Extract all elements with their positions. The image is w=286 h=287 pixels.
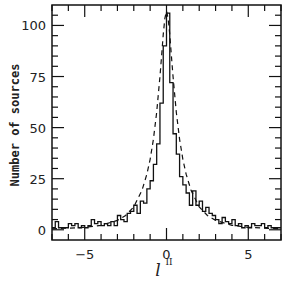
x-axis-title-superscript: II	[165, 257, 173, 267]
tick-label: 50	[29, 121, 46, 136]
tick-label: −5	[75, 247, 94, 262]
y-axis-title: Number of sources	[8, 64, 22, 187]
tick-label: 75	[29, 70, 46, 85]
x-axis-title: l	[155, 260, 160, 280]
observed-histogram	[52, 13, 281, 228]
histogram-chart: −5050255075100 Number of sources l II	[0, 0, 286, 287]
tick-label: 25	[29, 172, 46, 187]
tick-label: 100	[21, 18, 46, 33]
tick-label: 5	[244, 247, 252, 262]
tick-label: 0	[38, 223, 46, 238]
